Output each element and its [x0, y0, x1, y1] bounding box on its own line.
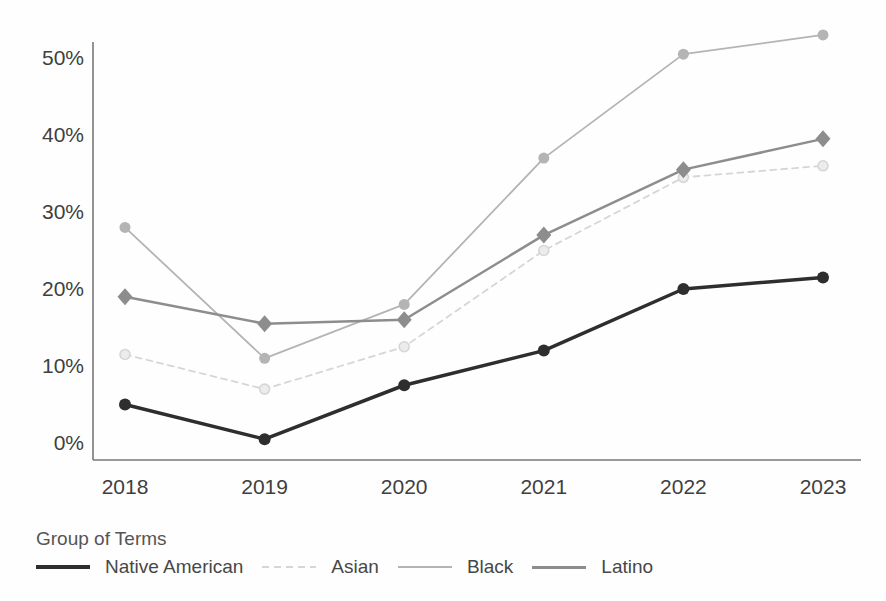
legend: Group of Terms Native American Asian Bla…: [36, 528, 856, 578]
point-native-american-2019: [259, 433, 271, 445]
point-asian-2023: [818, 161, 828, 171]
y-tick-label-30: 30%: [42, 200, 84, 223]
y-tick-label-0: 0%: [54, 431, 84, 454]
legend-items: Native American Asian Black Latino: [36, 556, 856, 578]
point-black-2020: [399, 299, 410, 310]
point-latino-2019: [257, 315, 272, 332]
legend-label-native-american: Native American: [105, 556, 243, 578]
x-tick-label-2023: 2023: [800, 475, 847, 498]
point-black-2018: [120, 222, 131, 233]
x-tick-label-2022: 2022: [660, 475, 707, 498]
series-line-black: [125, 35, 823, 358]
legend-swatch-black: [398, 566, 452, 568]
legend-item-black: Black: [398, 556, 513, 578]
legend-swatch-asian: [262, 566, 316, 568]
point-black-2021: [538, 153, 549, 164]
legend-label-black: Black: [467, 556, 513, 578]
legend-swatch-native-american: [36, 565, 90, 569]
y-tick-label-40: 40%: [42, 123, 84, 146]
point-black-2019: [259, 353, 270, 364]
legend-title: Group of Terms: [36, 528, 856, 550]
point-native-american-2022: [677, 283, 689, 295]
point-asian-2020: [399, 342, 409, 352]
point-asian-2021: [539, 246, 549, 256]
point-native-american-2021: [538, 345, 550, 357]
x-tick-label-2019: 2019: [241, 475, 288, 498]
point-native-american-2020: [398, 379, 410, 391]
x-tick-label-2018: 2018: [102, 475, 149, 498]
line-chart-figure: 0%10%20%30%40%50%20182019202020212022202…: [0, 0, 886, 601]
point-latino-2018: [118, 288, 133, 305]
point-latino-2021: [536, 227, 551, 244]
legend-item-asian: Asian: [262, 556, 379, 578]
legend-label-latino: Latino: [601, 556, 653, 578]
x-tick-label-2020: 2020: [381, 475, 428, 498]
point-native-american-2023: [817, 271, 829, 283]
point-latino-2020: [397, 311, 412, 328]
point-black-2023: [818, 29, 829, 40]
legend-swatch-latino: [532, 566, 586, 569]
point-asian-2018: [120, 349, 130, 359]
point-latino-2023: [816, 130, 831, 147]
point-black-2022: [678, 49, 689, 60]
legend-item-latino: Latino: [532, 556, 653, 578]
legend-item-native-american: Native American: [36, 556, 243, 578]
series-line-native-american: [125, 277, 823, 439]
y-tick-label-20: 20%: [42, 277, 84, 300]
y-tick-label-50: 50%: [42, 46, 84, 69]
x-tick-label-2021: 2021: [520, 475, 567, 498]
legend-label-asian: Asian: [331, 556, 379, 578]
point-native-american-2018: [119, 399, 131, 411]
chart-svg: 0%10%20%30%40%50%20182019202020212022202…: [0, 0, 886, 520]
y-tick-label-10: 10%: [42, 354, 84, 377]
point-asian-2019: [260, 384, 270, 394]
